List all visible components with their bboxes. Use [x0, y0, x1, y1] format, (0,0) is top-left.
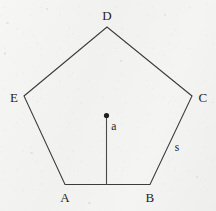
apothem-label: a	[111, 121, 116, 133]
pentagon-outline	[24, 27, 192, 185]
pentagon-figure: D E C A B a s	[0, 0, 216, 211]
side-label: s	[175, 142, 180, 154]
vertex-label-a: A	[60, 191, 70, 204]
vertex-label-c: C	[199, 91, 208, 104]
vertex-label-e: E	[10, 91, 18, 104]
pentagon-svg	[0, 0, 216, 211]
vertex-label-d: D	[102, 9, 112, 22]
center-point-dot	[104, 113, 109, 118]
vertex-label-b: B	[146, 191, 155, 204]
